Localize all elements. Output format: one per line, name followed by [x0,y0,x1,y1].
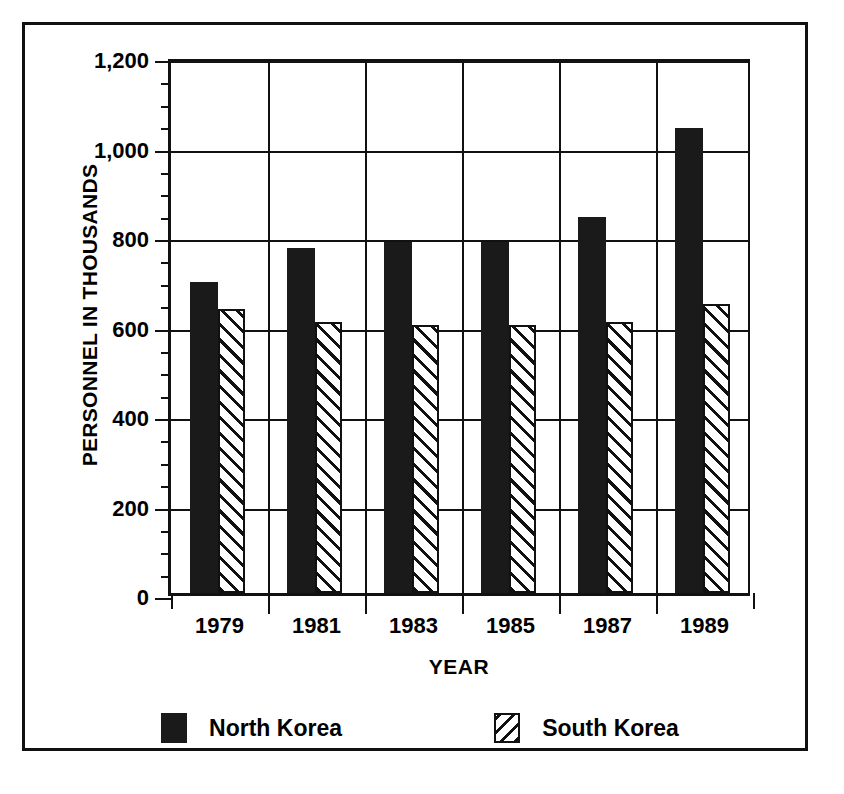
y-tick-label: 200 [112,496,149,522]
x-tick-label: 1981 [292,613,341,639]
bar-north-korea-1985 [481,242,509,593]
y-tick-minor [161,352,171,354]
y-axis-title: PERSONNEL IN THOUSANDS [78,45,102,585]
y-tick-major [155,61,171,63]
y-tick-minor [161,173,171,175]
x-tick-label: 1987 [583,613,632,639]
y-tick-minor [161,83,171,85]
x-tick [753,593,755,609]
x-category-separator [656,61,658,614]
y-gridline [171,509,748,511]
y-gridline [171,240,748,242]
chart-frame: PERSONNEL IN THOUSANDS 02004006008001,00… [22,22,808,751]
y-tick-minor [161,464,171,466]
y-tick-major [155,419,171,421]
y-tick-minor [161,374,171,376]
x-tick [559,593,561,609]
y-gridline [171,61,748,63]
y-gridline [171,419,748,421]
x-category-separator [268,61,270,614]
y-tick-minor [161,218,171,220]
y-tick-minor [161,106,171,108]
bar-north-korea-1989 [675,128,703,593]
x-tick-label: 1979 [195,613,244,639]
bar-south-korea-1979 [218,309,246,593]
bar-south-korea-1989 [703,304,731,593]
x-tick [365,593,367,609]
y-tick-minor [161,486,171,488]
y-tick-major [155,598,171,600]
y-tick-major [155,509,171,511]
y-tick-label: 1,000 [94,138,149,164]
chart-legend: North KoreaSouth Korea [85,713,755,743]
x-tick [656,593,658,609]
y-tick-major [155,330,171,332]
x-tick [268,593,270,609]
legend-swatch-icon [494,713,520,743]
legend-item-north-korea[interactable]: North Korea [161,713,342,743]
y-tick-minor [161,576,171,578]
legend-item-south-korea[interactable]: South Korea [494,713,679,743]
bar-north-korea-1981 [287,248,315,593]
bar-north-korea-1987 [578,217,606,593]
y-tick-label: 400 [112,406,149,432]
x-axis-title: YEAR [168,655,750,679]
x-tick [171,593,173,609]
bar-south-korea-1987 [606,322,634,593]
bar-south-korea-1983 [412,325,440,594]
y-tick-minor [161,262,171,264]
legend-swatch-icon [161,713,187,743]
y-gridline [171,151,748,153]
y-tick-label: 800 [112,227,149,253]
y-tick-minor [161,307,171,309]
x-tick-label: 1985 [486,613,535,639]
y-tick-minor [161,397,171,399]
y-tick-minor [161,128,171,130]
x-tick-label: 1983 [389,613,438,639]
x-category-separator [559,61,561,614]
bar-south-korea-1981 [315,322,343,593]
x-tick [462,593,464,609]
y-tick-minor [161,531,171,533]
plot-area: 02004006008001,0001,20019791981198319851… [168,59,750,596]
y-tick-minor [161,195,171,197]
x-tick-label: 1989 [680,613,729,639]
bar-north-korea-1979 [190,282,218,593]
y-tick-major [155,240,171,242]
y-tick-label: 1,200 [94,48,149,74]
y-tick-minor [161,285,171,287]
legend-label: North Korea [209,715,342,742]
y-tick-label: 600 [112,317,149,343]
bar-north-korea-1983 [384,242,412,593]
x-category-separator [462,61,464,614]
bar-south-korea-1985 [509,325,537,594]
x-category-separator [365,61,367,614]
y-tick-minor [161,441,171,443]
chart-figure: PERSONNEL IN THOUSANDS 02004006008001,00… [0,0,844,794]
y-tick-label: 0 [137,585,149,611]
y-tick-major [155,151,171,153]
y-gridline [171,330,748,332]
legend-label: South Korea [542,715,679,742]
y-tick-minor [161,553,171,555]
